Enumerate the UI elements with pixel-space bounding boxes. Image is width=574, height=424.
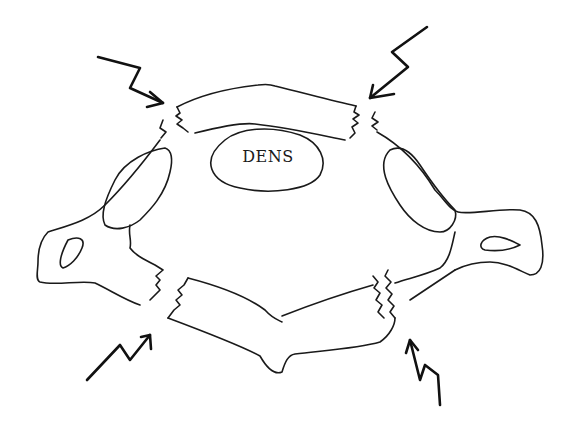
arrow-top-left [98, 57, 163, 107]
posterior-arch [168, 270, 395, 373]
arrow-bottom-left [87, 335, 151, 380]
anterior-arch [176, 84, 359, 140]
right-lateral-mass [372, 112, 543, 300]
arrow-top-right [370, 27, 427, 98]
arrow-bottom-right [406, 340, 440, 405]
dens-label: DENS [233, 147, 303, 166]
left-lateral-mass [37, 120, 171, 305]
atlas-diagram [0, 0, 574, 424]
